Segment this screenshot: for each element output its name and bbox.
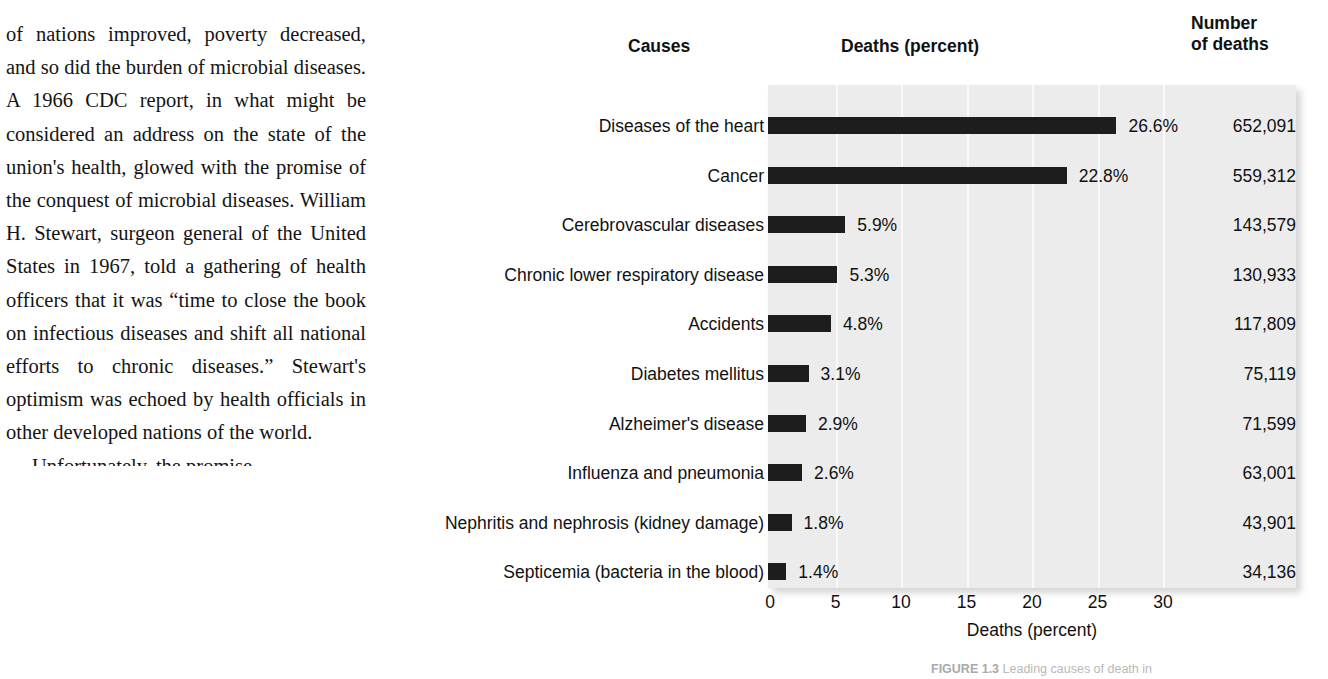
bar-value-label: 3.1%	[821, 362, 861, 386]
paragraph-next: Unfortunately, the promise	[6, 450, 366, 466]
table-row: Chronic lower respiratory disease5.3%130…	[366, 262, 1328, 288]
cause-label: Cerebrovascular diseases	[562, 213, 764, 237]
table-row: Septicemia (bacteria in the blood)1.4%34…	[366, 559, 1328, 585]
cause-label: Septicemia (bacteria in the blood)	[503, 560, 764, 584]
cause-label: Chronic lower respiratory disease	[504, 263, 764, 287]
number-of-deaths-value: 71,599	[1186, 412, 1296, 436]
bar-value-label: 5.3%	[849, 263, 889, 287]
number-of-deaths-value: 652,091	[1186, 114, 1296, 138]
x-tick-label-25: 25	[1078, 592, 1118, 613]
table-row: Cerebrovascular diseases5.9%143,579	[366, 212, 1328, 238]
bar	[768, 167, 1067, 184]
number-of-deaths-value: 117,809	[1186, 312, 1296, 336]
bar-value-label: 22.8%	[1079, 164, 1129, 188]
x-axis-title: Deaths (percent)	[768, 620, 1296, 641]
table-row: Influenza and pneumonia2.6%63,001	[366, 460, 1328, 486]
bar	[768, 315, 831, 332]
table-row: Cancer22.8%559,312	[366, 163, 1328, 189]
x-tick-label-30: 30	[1143, 592, 1183, 613]
x-tick-label-5: 5	[816, 592, 856, 613]
table-row: Nephritis and nephrosis (kidney damage)1…	[366, 510, 1328, 536]
bar-value-label: 2.6%	[814, 461, 854, 485]
number-of-deaths-value: 143,579	[1186, 213, 1296, 237]
table-row: Diseases of the heart26.6%652,091	[366, 113, 1328, 139]
bar-value-label: 1.8%	[804, 511, 844, 535]
bar	[768, 563, 786, 580]
bar-value-label: 2.9%	[818, 412, 858, 436]
cause-label: Alzheimer's disease	[609, 412, 764, 436]
x-tick-label-10: 10	[881, 592, 921, 613]
cause-label: Influenza and pneumonia	[567, 461, 764, 485]
column-header-deaths-percent: Deaths (percent)	[841, 36, 979, 57]
bar-value-label: 5.9%	[857, 213, 897, 237]
figure-caption-text: Leading causes of death in	[1003, 662, 1152, 676]
number-of-deaths-value: 34,136	[1186, 560, 1296, 584]
number-of-deaths-value: 559,312	[1186, 164, 1296, 188]
bar	[768, 365, 809, 382]
bar	[768, 514, 792, 531]
figure-caption-prefix: FIGURE 1.3	[931, 662, 999, 676]
bar-value-label: 1.4%	[798, 560, 838, 584]
paragraph-continued: of nations improved, poverty decreased, …	[6, 18, 366, 450]
cause-label: Cancer	[708, 164, 764, 188]
figure-bar-chart: Causes Deaths (percent) Number of deaths…	[366, 0, 1328, 679]
bar-value-label: 4.8%	[843, 312, 883, 336]
figure-caption: FIGURE 1.3 Leading causes of death in	[931, 662, 1328, 679]
cause-label: Accidents	[688, 312, 764, 336]
x-tick-label-15: 15	[947, 592, 987, 613]
number-of-deaths-value: 130,933	[1186, 263, 1296, 287]
x-tick-label-20: 20	[1012, 592, 1052, 613]
bar-value-label: 26.6%	[1128, 114, 1178, 138]
bar	[768, 415, 806, 432]
table-row: Diabetes mellitus3.1%75,119	[366, 361, 1328, 387]
table-row: Alzheimer's disease2.9%71,599	[366, 411, 1328, 437]
cause-label: Nephritis and nephrosis (kidney damage)	[445, 511, 764, 535]
table-row: Accidents4.8%117,809	[366, 311, 1328, 337]
cause-label: Diseases of the heart	[599, 114, 764, 138]
bar	[768, 216, 845, 233]
cause-label: Diabetes mellitus	[631, 362, 764, 386]
bar	[768, 464, 802, 481]
number-of-deaths-value: 43,901	[1186, 511, 1296, 535]
number-of-deaths-value: 75,119	[1186, 362, 1296, 386]
body-text-column: of nations improved, poverty decreased, …	[6, 18, 366, 466]
x-tick-label-0: 0	[750, 592, 790, 613]
bar	[768, 266, 837, 283]
bar	[768, 117, 1116, 134]
number-of-deaths-value: 63,001	[1186, 461, 1296, 485]
column-header-causes: Causes	[628, 36, 690, 57]
column-header-number-of-deaths: Number of deaths	[1191, 13, 1269, 55]
